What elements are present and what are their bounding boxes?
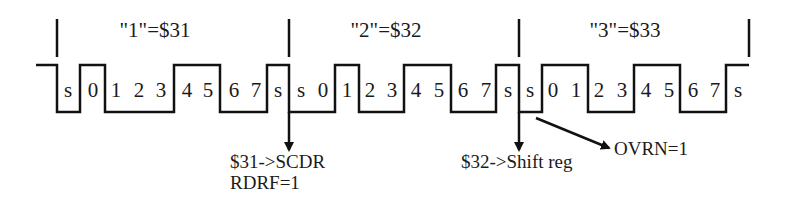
annotation-scdr: $31->SCDR [230,151,326,172]
annotation-arrows [289,112,609,150]
annotation-ovrn: OVRN=1 [614,138,688,159]
bit-label: 2 [134,78,145,102]
bit-label: 4 [641,78,652,102]
bit-label: 6 [458,78,469,102]
bit-label: 3 [156,78,167,102]
annotation-rdrf: RDRF=1 [230,172,300,193]
bit-label: 0 [318,78,329,102]
bit-label: 1 [571,78,582,102]
bit-label: 0 [548,78,559,102]
bit-label: 7 [251,78,262,102]
bit-label: s [274,78,282,102]
bit-label: 5 [664,78,675,102]
frame-title-1: "1"=$31 [120,18,191,42]
frame-title-2: "2"=$32 [351,18,422,42]
bit-label: 7 [710,78,721,102]
bit-label: 1 [342,78,353,102]
bit-label: 2 [594,78,605,102]
bit-label: 3 [387,78,398,102]
annotation-shift-reg: $32->Shift reg [461,151,573,172]
bit-label: 5 [434,78,445,102]
bit-label: 3 [617,78,628,102]
bit-label: 1 [111,78,122,102]
bit-label: s [526,78,534,102]
bit-label: 6 [229,78,240,102]
frame-title-3: "3"=$33 [590,18,661,42]
bit-label: s [297,78,305,102]
bit-label: 0 [88,78,99,102]
bit-label: 4 [182,78,193,102]
bit-label: s [64,78,72,102]
bit-label: 5 [203,78,214,102]
bit-label: 7 [481,78,492,102]
bit-label: 4 [411,78,422,102]
bit-label: s [504,78,512,102]
arrow-diagonal-icon [536,118,609,148]
bit-label: 6 [688,78,699,102]
timing-diagram: "1"=$31 "2"=$32 "3"=$33 s 0 1 2 3 4 5 6 … [0,0,790,209]
bit-label: s [734,78,742,102]
bit-label: 2 [365,78,376,102]
